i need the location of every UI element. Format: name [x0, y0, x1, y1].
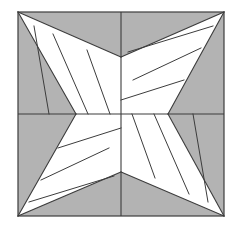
- dissection-diagram: [0, 0, 238, 229]
- geometric-figure-root: A square frame divided by a central hori…: [0, 0, 238, 229]
